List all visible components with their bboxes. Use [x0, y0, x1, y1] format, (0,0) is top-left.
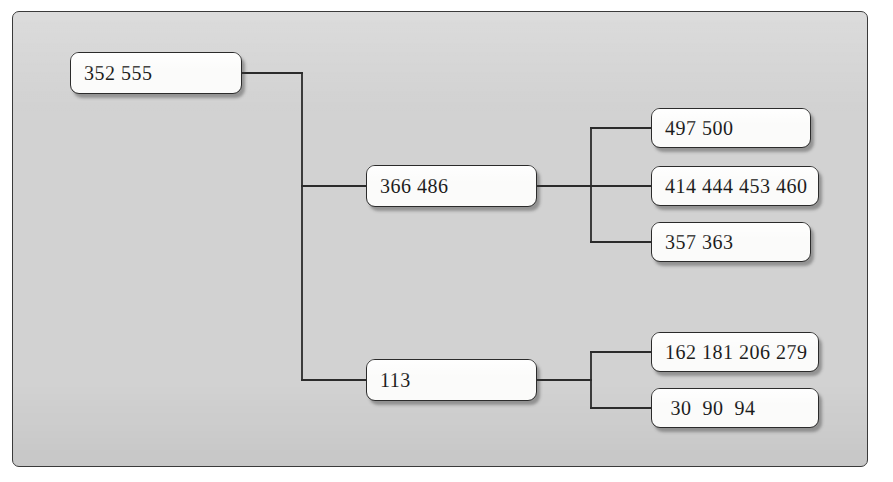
node-414-444-453-460[interactable]: 414 444 453 460: [651, 166, 819, 206]
diagram-canvas: 352 555 366 486 113 497 500 414 444 453 …: [0, 0, 893, 482]
node-357-363-label: 357 363: [652, 232, 734, 252]
node-414-444-453-460-label: 414 444 453 460: [652, 176, 808, 196]
node-30-90-94[interactable]: 30 90 94: [651, 388, 819, 428]
node-497-500[interactable]: 497 500: [651, 108, 811, 148]
node-497-500-label: 497 500: [652, 118, 734, 138]
node-357-363[interactable]: 357 363: [651, 222, 811, 262]
node-113-label: 113: [367, 370, 411, 390]
node-366-486[interactable]: 366 486: [366, 165, 537, 207]
node-162-181-206-279-label: 162 181 206 279: [652, 342, 808, 362]
node-30-90-94-label: 30 90 94: [652, 398, 756, 418]
node-162-181-206-279[interactable]: 162 181 206 279: [651, 332, 819, 372]
node-366-486-label: 366 486: [367, 176, 449, 196]
node-root[interactable]: 352 555: [70, 52, 242, 94]
node-root-label: 352 555: [71, 63, 153, 83]
node-113[interactable]: 113: [366, 359, 537, 401]
